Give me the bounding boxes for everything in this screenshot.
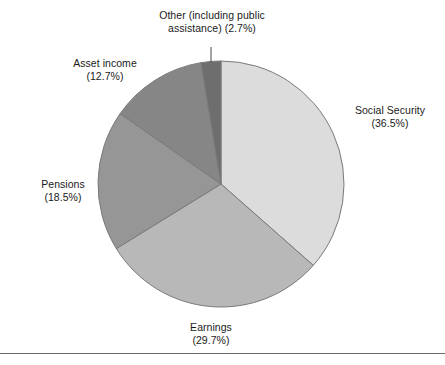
slice-label-social-security: Social Security (36.5%) [334,104,445,130]
pie-chart-figure: Other (including public assistance) (2.7… [0,0,445,365]
slice-label-other: Other (including public assistance) (2.7… [122,9,302,35]
bottom-divider [0,353,445,354]
slice-label-pensions: Pensions (18.5%) [13,178,113,204]
pie-slice-group [98,61,344,307]
slice-label-earnings: Earnings (29.7%) [155,321,267,347]
slice-label-asset-income: Asset income (12.7%) [50,57,160,83]
